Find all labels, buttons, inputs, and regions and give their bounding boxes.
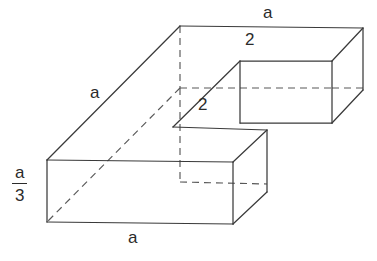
fraction-denominator: 3 <box>12 186 27 204</box>
edge-top-face-back <box>180 26 363 28</box>
edge-base-right-bottom-slant <box>233 192 267 224</box>
edge-front-bottom <box>47 222 233 224</box>
edge-arm-right-bottom-slant <box>332 90 363 123</box>
edge-notch-floor-left-slant <box>173 61 240 127</box>
edge-base-right-top-slant <box>233 130 267 162</box>
hidden-edge-back-diagonal <box>47 88 180 222</box>
dimension-label-height-fraction: a 3 <box>12 164 27 204</box>
solid-diagram-svg <box>0 0 377 261</box>
edge-notch-top-right-slant <box>332 28 363 61</box>
figure-container: a a 2 2 a a 3 <box>0 0 377 261</box>
edge-notch-floor-front <box>173 127 267 130</box>
dimension-label-bottom-width: a <box>128 229 137 246</box>
hidden-edge-base-back-horizontal <box>180 182 267 184</box>
dimension-label-top-depth: a <box>263 4 272 21</box>
dimension-label-notch-top: 2 <box>245 31 254 48</box>
edge-top-face-left-slant <box>47 26 180 160</box>
solid-edges-group <box>47 26 363 224</box>
fraction-numerator: a <box>12 164 27 182</box>
dimension-label-notch-front: 2 <box>198 96 207 113</box>
dimension-label-left-slant: a <box>90 84 99 101</box>
edge-front-top <box>47 160 233 162</box>
fraction-bar <box>12 183 27 184</box>
hidden-edges-group <box>47 26 363 222</box>
